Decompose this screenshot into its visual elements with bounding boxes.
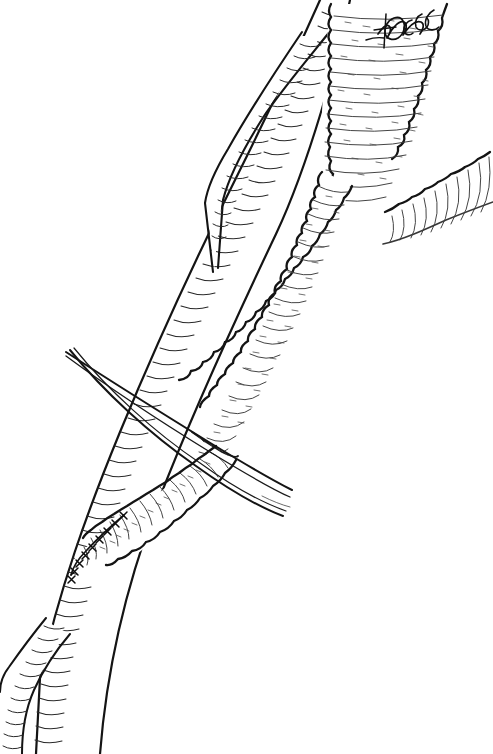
vascular-graft-illustration	[0, 0, 493, 754]
illustration-canvas: Crimped synthetic bypass graft anastomos…	[0, 0, 493, 754]
